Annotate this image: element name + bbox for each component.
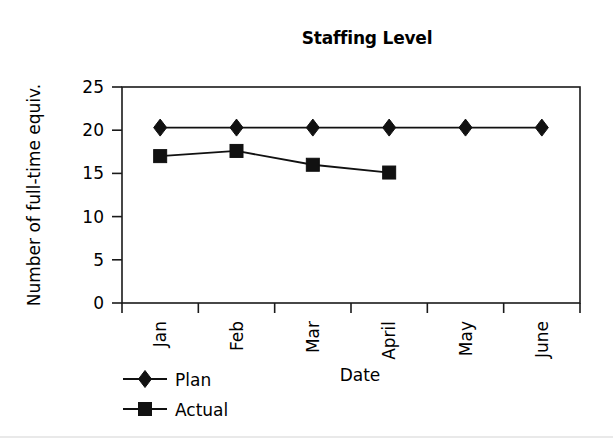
x-tick-label: May bbox=[456, 321, 476, 356]
y-tick-label: 5 bbox=[93, 250, 104, 270]
staffing-level-line-chart: Staffing Level Number of full-time equiv… bbox=[0, 0, 613, 445]
data-point-actual bbox=[383, 166, 396, 179]
y-tick-label: 10 bbox=[82, 207, 104, 227]
data-point-actual bbox=[306, 158, 319, 171]
x-tick-label: April bbox=[379, 321, 399, 360]
y-tick-label: 0 bbox=[93, 293, 104, 313]
y-tick-label: 25 bbox=[82, 77, 104, 97]
x-tick-label: Mar bbox=[303, 321, 323, 353]
data-point-actual bbox=[230, 144, 243, 157]
x-tick-label: Feb bbox=[227, 321, 247, 351]
y-axis-title: Number of full-time equiv. bbox=[24, 84, 44, 307]
x-axis-title: Date bbox=[340, 365, 381, 385]
y-tick-label: 20 bbox=[82, 120, 104, 140]
x-tick-label: Jan bbox=[150, 321, 170, 348]
x-tick-label: June bbox=[532, 321, 552, 359]
y-tick-label: 15 bbox=[82, 163, 104, 183]
data-point-actual bbox=[154, 150, 167, 163]
chart-title: Staffing Level bbox=[302, 28, 433, 48]
chart-container: Staffing Level Number of full-time equiv… bbox=[0, 0, 613, 445]
legend-label-actual: Actual bbox=[175, 400, 228, 420]
square-icon bbox=[139, 403, 152, 416]
legend-label-plan: Plan bbox=[175, 370, 211, 390]
